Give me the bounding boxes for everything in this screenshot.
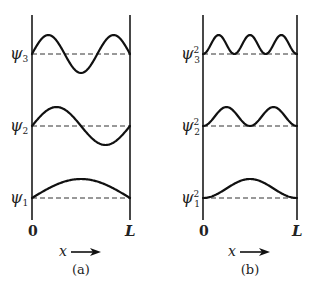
curve-label-a-n2: ψ2 — [10, 116, 28, 136]
length-label-a: L — [124, 222, 136, 240]
length-label-b: L — [291, 222, 303, 240]
curve-label-b-n2: ψ22 — [181, 116, 200, 137]
curve-label-b-n3: ψ23 — [181, 44, 200, 65]
x-axis-label-a: x — [59, 243, 67, 259]
curve-label-a-n1: ψ1 — [10, 188, 28, 208]
curve-a-n1 — [32, 179, 130, 198]
curve-b-n1 — [203, 179, 297, 198]
panel-caption-b: (b) — [241, 262, 259, 277]
curve-b-n3 — [203, 35, 297, 54]
origin-label-a: 0 — [28, 223, 38, 239]
curve-label-b-n1: ψ21 — [181, 188, 200, 209]
curve-b-n2 — [203, 107, 297, 126]
x-axis-label-b: x — [228, 243, 236, 259]
particle-in-box-figure: ψ1ψ2ψ30Lx(a)ψ21ψ22ψ230Lx(b) — [0, 0, 312, 286]
panel-caption-a: (a) — [72, 262, 90, 277]
origin-label-b: 0 — [199, 223, 209, 239]
curve-label-a-n3: ψ3 — [10, 44, 29, 64]
